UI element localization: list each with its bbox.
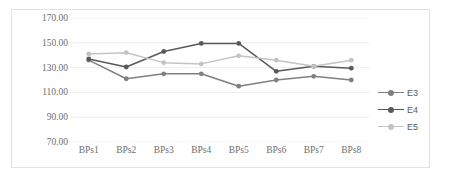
y-axis-tick-label: 70.00 [14, 137, 68, 147]
data-point[interactable] [236, 84, 241, 89]
legend-item-e5[interactable]: E5 [378, 118, 438, 135]
data-point[interactable] [199, 41, 204, 46]
y-axis: 170.00150.00130.00110.0090.0070.00 [14, 0, 68, 182]
legend-marker-icon [388, 124, 394, 130]
data-point[interactable] [161, 71, 166, 76]
data-point[interactable] [161, 49, 166, 54]
x-axis-tick-label: BPs4 [183, 145, 221, 163]
chart-container: 170.00150.00130.00110.0090.0070.00 BPs1B… [0, 0, 451, 182]
legend-label-e4: E4 [407, 105, 418, 115]
data-point[interactable] [349, 58, 354, 63]
y-axis-tick-label: 90.00 [14, 112, 68, 122]
data-point[interactable] [86, 52, 91, 57]
series-line [89, 53, 352, 67]
x-axis-tick-label: BPs8 [333, 145, 371, 163]
x-axis-tick-label: BPs2 [108, 145, 146, 163]
x-axis-tick-label: BPs3 [145, 145, 183, 163]
legend-label-e5: E5 [407, 122, 418, 132]
legend-swatch-e4 [378, 105, 404, 115]
x-axis-tick-label: BPs1 [70, 145, 108, 163]
data-point[interactable] [86, 57, 91, 62]
y-axis-tick-label: 150.00 [14, 38, 68, 48]
x-axis-tick-label: BPs7 [295, 145, 333, 163]
series-e4 [86, 41, 353, 74]
series-line [89, 60, 352, 86]
data-point[interactable] [349, 78, 354, 83]
legend-item-e3[interactable]: E3 [378, 84, 438, 101]
x-axis-tick-label: BPs6 [258, 145, 296, 163]
x-axis: BPs1BPs2BPs3BPs4BPs5BPs6BPs7BPs8 [70, 145, 370, 163]
data-point[interactable] [199, 61, 204, 66]
data-point[interactable] [124, 50, 129, 55]
data-point[interactable] [124, 76, 129, 81]
legend-marker-icon [388, 90, 394, 96]
data-point[interactable] [311, 64, 316, 69]
data-point[interactable] [274, 78, 279, 83]
legend-swatch-e3 [378, 88, 404, 98]
data-point[interactable] [161, 60, 166, 65]
x-axis-tick-label: BPs5 [220, 145, 258, 163]
series-e3 [86, 58, 353, 89]
data-point[interactable] [349, 66, 354, 71]
legend-swatch-e5 [378, 122, 404, 132]
data-point[interactable] [124, 65, 129, 70]
data-point[interactable] [199, 71, 204, 76]
y-axis-tick-label: 110.00 [14, 87, 68, 97]
plot-area [70, 18, 370, 142]
legend-label-e3: E3 [407, 88, 418, 98]
data-point[interactable] [236, 41, 241, 46]
legend-marker-icon [388, 107, 394, 113]
y-axis-tick-label: 170.00 [14, 13, 68, 23]
data-point[interactable] [236, 53, 241, 58]
y-axis-tick-label: 130.00 [14, 63, 68, 73]
data-point[interactable] [274, 58, 279, 63]
legend-item-e4[interactable]: E4 [378, 101, 438, 118]
data-point[interactable] [274, 69, 279, 74]
chart-legend: E3 E4 E5 [378, 84, 438, 136]
data-point[interactable] [311, 74, 316, 79]
